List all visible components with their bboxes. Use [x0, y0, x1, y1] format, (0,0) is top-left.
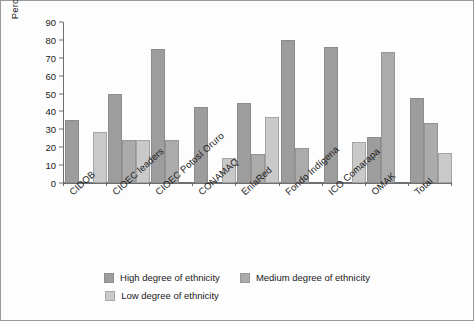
legend-label: High degree of ethnicity	[120, 272, 220, 283]
bar-group	[63, 22, 106, 183]
x-tick-mark	[451, 182, 452, 186]
bar-group	[235, 22, 278, 183]
chart-legend: High degree of ethnicityMedium degree of…	[1, 272, 473, 301]
x-tick-mark	[149, 182, 150, 186]
plot-area: 9080706050403020100	[63, 22, 451, 183]
legend-swatch-icon	[105, 291, 115, 301]
x-tick-mark	[192, 182, 193, 186]
x-tick-mark	[235, 182, 236, 186]
y-axis-title: Percentage	[9, 0, 20, 49]
bar	[424, 123, 438, 183]
bar	[410, 98, 424, 183]
x-tick-mark	[408, 182, 409, 186]
x-tick-mark	[279, 182, 280, 186]
legend-label: Medium degree of ethnicity	[256, 272, 370, 283]
legend-swatch-icon	[240, 273, 250, 283]
x-tick-mark	[63, 182, 64, 186]
bar	[281, 40, 295, 183]
bar	[438, 153, 452, 183]
x-tick-mark	[322, 182, 323, 186]
bar	[381, 52, 395, 183]
x-tick-mark	[106, 182, 107, 186]
bar-group	[408, 22, 451, 183]
legend-item[interactable]: Low degree of ethnicity	[105, 290, 219, 301]
bar	[108, 94, 122, 183]
legend-item[interactable]: High degree of ethnicity	[104, 272, 220, 283]
legend-row-primary: High degree of ethnicityMedium degree of…	[104, 272, 370, 283]
x-tick-mark	[365, 182, 366, 186]
legend-swatch-icon	[104, 273, 114, 283]
legend-item[interactable]: Medium degree of ethnicity	[240, 272, 370, 283]
bar	[237, 103, 251, 184]
bar	[65, 120, 79, 183]
legend-row-secondary: Low degree of ethnicity	[105, 290, 219, 301]
bar-chart-figure: Percentage 9080706050403020100 CIDOBCIOE…	[0, 0, 474, 321]
legend-label: Low degree of ethnicity	[121, 290, 219, 301]
